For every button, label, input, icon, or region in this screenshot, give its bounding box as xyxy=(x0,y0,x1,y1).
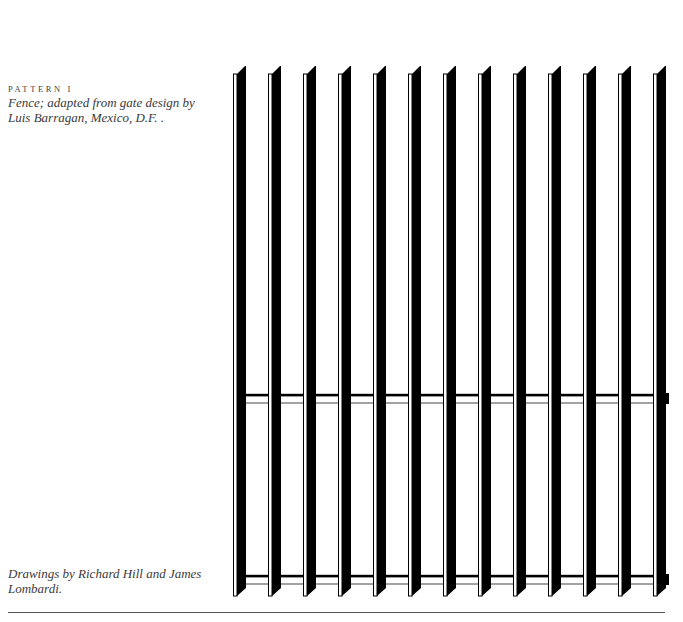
picket-side-face xyxy=(622,66,631,596)
picket-front-face xyxy=(549,74,553,596)
fence-picket xyxy=(339,66,352,596)
picket-front-face xyxy=(444,74,448,596)
fence-picket xyxy=(654,66,667,596)
fence-picket xyxy=(584,66,597,596)
fence-drawing xyxy=(0,0,683,622)
fence-picket xyxy=(479,66,492,596)
picket-side-face xyxy=(657,66,666,596)
picket-side-face xyxy=(447,66,456,596)
picket-side-face xyxy=(272,66,281,596)
pickets xyxy=(234,66,667,596)
picket-front-face xyxy=(479,74,483,596)
picket-front-face xyxy=(269,74,273,596)
picket-front-face xyxy=(584,74,588,596)
fence-picket xyxy=(444,66,457,596)
bottom-rule xyxy=(8,612,665,613)
picket-front-face xyxy=(339,74,343,596)
fence-picket xyxy=(304,66,317,596)
picket-front-face xyxy=(619,74,623,596)
picket-front-face xyxy=(374,74,378,596)
picket-front-face xyxy=(409,74,413,596)
picket-side-face xyxy=(307,66,316,596)
picket-side-face xyxy=(342,66,351,596)
picket-front-face xyxy=(234,74,238,596)
fence-picket xyxy=(514,66,527,596)
picket-side-face xyxy=(587,66,596,596)
fence-picket xyxy=(374,66,387,596)
picket-front-face xyxy=(654,74,658,596)
fence-picket xyxy=(234,66,247,596)
fence-picket xyxy=(549,66,562,596)
picket-side-face xyxy=(517,66,526,596)
picket-side-face xyxy=(482,66,491,596)
picket-side-face xyxy=(552,66,561,596)
fence-picket xyxy=(269,66,282,596)
fence-picket xyxy=(619,66,632,596)
picket-front-face xyxy=(304,74,308,596)
picket-front-face xyxy=(514,74,518,596)
picket-side-face xyxy=(377,66,386,596)
picket-side-face xyxy=(412,66,421,596)
picket-side-face xyxy=(237,66,246,596)
fence-picket xyxy=(409,66,422,596)
